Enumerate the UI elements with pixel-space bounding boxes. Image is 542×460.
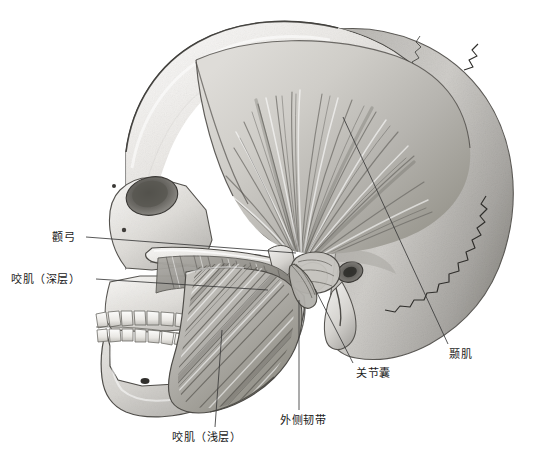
anatomy-figure: 颧弓 咬肌（深层） 咬肌（浅层） 外侧韧带 关节囊 颞肌 bbox=[0, 0, 542, 460]
label-zygomatic-arch: 颧弓 bbox=[52, 231, 75, 244]
label-joint-capsule: 关节囊 bbox=[356, 367, 391, 380]
infraorbital-foramen bbox=[122, 228, 126, 232]
label-temporalis: 颞肌 bbox=[449, 348, 472, 361]
supraorbital-foramen bbox=[112, 184, 116, 188]
label-lateral-ligament: 外侧韧带 bbox=[280, 414, 326, 427]
label-masseter-deep: 咬肌（深层） bbox=[11, 273, 80, 286]
mental-foramen bbox=[141, 378, 150, 384]
skull-illustration bbox=[0, 0, 542, 460]
label-masseter-superficial: 咬肌（浅层） bbox=[172, 431, 241, 444]
